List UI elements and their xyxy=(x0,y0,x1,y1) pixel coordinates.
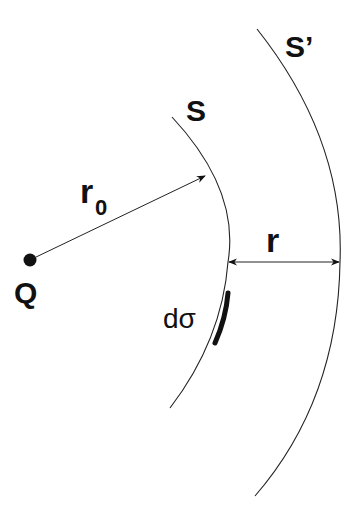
inner-radius-label: r xyxy=(80,172,93,210)
outer-surface-label: S’ xyxy=(285,30,313,63)
charge-label: Q xyxy=(14,276,37,309)
gauss-surface-diagram: Q S S’ r 0 r dσ xyxy=(0,0,356,516)
gap-distance-label: r xyxy=(266,221,279,259)
inner-radius-arrow xyxy=(34,176,205,258)
area-element-label: dσ xyxy=(163,303,196,334)
charge-point xyxy=(24,254,37,267)
inner-surface-arc xyxy=(170,117,230,408)
inner-surface-label: S xyxy=(186,94,206,127)
inner-radius-subscript: 0 xyxy=(95,195,107,220)
